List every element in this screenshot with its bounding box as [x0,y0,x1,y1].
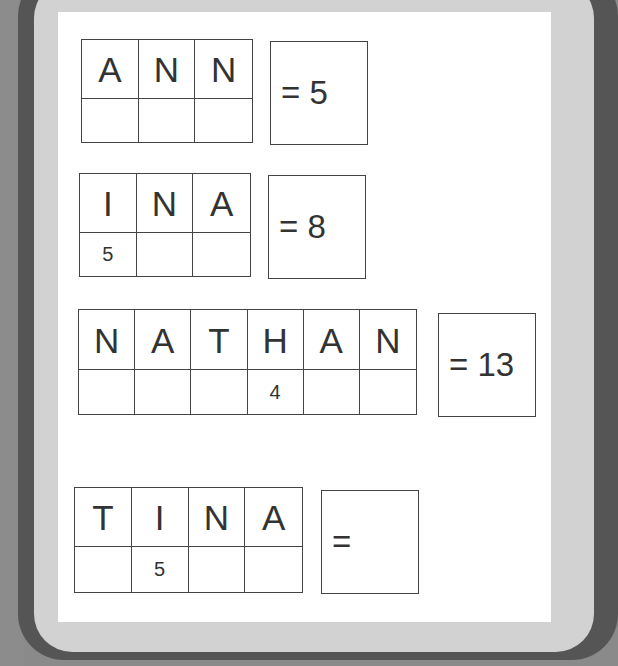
letter-cell: I [132,488,189,547]
value-cell[interactable] [135,370,191,414]
value-cell[interactable] [195,99,252,142]
letter-cell: N [189,488,246,547]
value-cell[interactable] [75,547,132,592]
puzzle-1-answer[interactable]: = 5 [270,41,368,145]
letter-cell: A [304,310,360,370]
value-cell[interactable] [193,233,250,276]
puzzle-2-answer[interactable]: = 8 [268,175,366,279]
letter-cell: A [82,40,139,99]
value-cell[interactable] [137,233,194,276]
value-cell[interactable] [79,370,135,414]
letter-cell: N [360,310,416,370]
letter-cell: N [137,174,194,233]
puzzle-1-grid: A N N [81,39,253,143]
value-cell[interactable] [191,370,247,414]
puzzle-2-grid: I N A 5 [79,173,251,277]
value-cell[interactable] [139,99,196,142]
puzzle-4-answer[interactable]: = [321,490,419,594]
letter-cell: N [195,40,252,99]
letter-cell: H [248,310,304,370]
letter-cell: I [80,174,137,233]
letter-cell: T [75,488,132,547]
puzzle-3-grid: N A T H A N 4 [78,309,417,415]
value-cell[interactable]: 5 [80,233,137,276]
value-cell[interactable] [189,547,246,592]
puzzle-4-grid: T I N A 5 [74,487,303,593]
puzzle-3-answer[interactable]: = 13 [438,313,536,417]
value-cell[interactable]: 5 [132,547,189,592]
value-cell[interactable]: 4 [248,370,304,414]
letter-cell: A [245,488,302,547]
value-cell[interactable] [245,547,302,592]
value-cell[interactable] [304,370,360,414]
value-cell[interactable] [360,370,416,414]
letter-cell: A [135,310,191,370]
letter-cell: N [139,40,196,99]
value-cell[interactable] [82,99,139,142]
letter-cell: N [79,310,135,370]
letter-cell: T [191,310,247,370]
letter-cell: A [193,174,250,233]
